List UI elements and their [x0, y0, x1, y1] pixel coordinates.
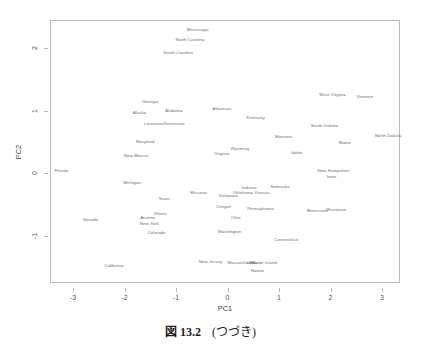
x-tick-mark — [228, 288, 229, 292]
data-point-label: Connecticut — [274, 238, 298, 242]
y-axis-title: PC2 — [14, 145, 23, 160]
data-point-label: Virginia — [214, 152, 229, 156]
data-point-label: Kentucky — [247, 116, 265, 120]
data-point-label: Texas — [158, 197, 170, 201]
data-point-label: Colorado — [147, 231, 165, 235]
y-tick-mark — [44, 111, 48, 112]
x-tick-mark — [176, 288, 177, 292]
y-tick-mark — [44, 48, 48, 49]
data-point-label: Georgia — [142, 100, 158, 104]
x-tick-mark — [125, 288, 126, 292]
data-point-label: New Jersey — [199, 260, 222, 264]
data-point-label: Nebraska — [270, 185, 289, 189]
data-point-label: Florida — [54, 169, 68, 173]
x-axis-title: PC1 — [218, 304, 233, 313]
data-point-label: Iowa — [327, 175, 336, 179]
data-point-label: Alaska — [133, 111, 146, 115]
y-tick-label: -1 — [31, 230, 38, 242]
x-tick-label: 3 — [380, 294, 384, 301]
caption-note: (つづき) — [212, 325, 256, 339]
data-point-label: Tennessee — [163, 121, 185, 125]
data-point-label: New Hampshire — [318, 168, 350, 172]
x-tick-label: 0 — [226, 294, 230, 301]
data-point-label: Montana — [275, 135, 292, 139]
data-point-label: New York — [140, 222, 159, 226]
data-point-label: Idaho — [291, 151, 302, 155]
y-tick-label: 0 — [31, 167, 38, 179]
data-point-label: Delaware — [219, 194, 238, 198]
x-tick-label: 2 — [329, 294, 333, 301]
data-point-label: Alabama — [165, 108, 183, 112]
scatter-plot-frame: MississippiNorth CarolinaSouth CarolinaW… — [50, 20, 400, 283]
y-tick-mark — [44, 236, 48, 237]
data-point-label: Michigan — [123, 181, 141, 185]
data-point-label: Nevada — [83, 218, 98, 222]
y-tick-label: 1 — [31, 105, 38, 117]
data-point-label: Kansas — [255, 190, 270, 194]
data-point-label: Missouri — [190, 191, 207, 195]
data-point-label: Mississippi — [187, 28, 209, 32]
data-point-label: Rhode Island — [250, 261, 276, 265]
data-point-label: Vermont — [357, 95, 374, 99]
data-point-label: New Mexico — [124, 154, 148, 158]
data-point-label: Wisconsin — [326, 208, 346, 212]
data-point-label: California — [104, 264, 123, 268]
data-points-layer: MississippiNorth CarolinaSouth CarolinaW… — [51, 21, 399, 282]
caption-number: 13.2 — [180, 325, 201, 339]
data-point-label: Maine — [339, 141, 351, 145]
x-tick-mark — [73, 288, 74, 292]
data-point-label: Ohio — [231, 216, 240, 220]
data-point-label: Washington — [218, 230, 242, 234]
data-point-label: Minnesota — [307, 209, 328, 213]
y-tick-mark — [44, 173, 48, 174]
figure-caption: 図 13.2 (つづき) — [0, 322, 421, 340]
x-tick-label: -3 — [70, 294, 76, 301]
data-point-label: North Carolina — [175, 38, 204, 42]
x-tick-mark — [382, 288, 383, 292]
data-point-label: Louisiana — [144, 121, 163, 125]
data-point-label: Wyoming — [231, 147, 250, 151]
x-tick-label: -1 — [173, 294, 179, 301]
data-point-label: North Dakota — [375, 133, 401, 137]
data-point-label: Maryland — [136, 140, 154, 144]
data-point-label: South Dakota — [311, 123, 338, 127]
figure-container: MississippiNorth CarolinaSouth CarolinaW… — [0, 0, 421, 347]
data-point-label: Illinois — [154, 212, 167, 216]
x-tick-label: 1 — [277, 294, 281, 301]
data-point-label: West Virginia — [319, 93, 345, 97]
caption-figure-word: 図 — [165, 325, 177, 339]
data-point-label: Oregon — [216, 205, 231, 209]
data-point-label: Hawaii — [251, 269, 264, 273]
data-point-label: South Carolina — [163, 51, 193, 55]
data-point-label: Arkansas — [213, 106, 232, 110]
y-tick-label: 2 — [31, 42, 38, 54]
data-point-label: Pennsylvania — [247, 207, 274, 211]
x-tick-mark — [331, 288, 332, 292]
x-tick-label: -2 — [122, 294, 128, 301]
x-tick-mark — [279, 288, 280, 292]
